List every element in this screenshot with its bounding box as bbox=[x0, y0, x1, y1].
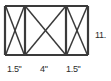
mid-bay-brace bbox=[26, 7, 65, 54]
right-bay-brace bbox=[67, 7, 87, 54]
dimension-label-overall-height: 11. bbox=[95, 31, 111, 40]
dimension-label-left-bay: 1.5" bbox=[7, 65, 22, 74]
left-bay-brace bbox=[6, 7, 24, 54]
dimension-label-mid-bay: 4" bbox=[40, 65, 48, 74]
dimension-label-right-bay: 1.5" bbox=[66, 65, 81, 74]
braced-frame-diagram: 1.5" 4" 1.5" 11. bbox=[0, 0, 111, 81]
outer-frame bbox=[5, 6, 88, 55]
